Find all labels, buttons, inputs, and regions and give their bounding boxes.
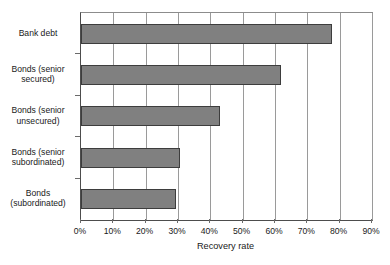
bar [81, 106, 220, 126]
category-label: Bonds (senior unsecured) [0, 105, 76, 126]
category-label: Bank debt [0, 28, 76, 38]
bar [81, 148, 180, 168]
x-axis-tick [274, 219, 275, 223]
y-axis-tick [75, 95, 80, 96]
y-axis-tick [75, 178, 80, 179]
x-axis-tick [242, 219, 243, 223]
x-axis-tick [339, 219, 340, 223]
category-label: Bonds (senior subordinated) [0, 147, 76, 168]
bar-row [81, 179, 372, 220]
bar-row [81, 13, 372, 54]
x-axis-tick [209, 219, 210, 223]
y-axis-tick [75, 53, 80, 54]
recovery-rate-bar-chart: Bank debtBonds (senior secured)Bonds (se… [0, 0, 390, 265]
category-label: Bonds (subordinated) [0, 188, 76, 209]
x-axis-title: Recovery rate [80, 241, 371, 252]
bar [81, 189, 176, 209]
bar-row [81, 54, 372, 95]
category-axis-labels: Bank debtBonds (senior secured)Bonds (se… [0, 12, 76, 219]
x-axis-tick [177, 219, 178, 223]
gridline-vertical [372, 13, 373, 220]
category-label: Bonds (senior secured) [0, 64, 76, 85]
x-axis-tick [80, 219, 81, 223]
bar-row [81, 96, 372, 137]
bar [81, 65, 281, 85]
x-axis-tick [112, 219, 113, 223]
bar [81, 24, 332, 44]
x-axis-tick-label: 90% [351, 226, 390, 236]
x-axis-tick [145, 219, 146, 223]
bar-row [81, 137, 372, 178]
y-axis-tick [75, 136, 80, 137]
x-axis-tick [371, 219, 372, 223]
plot-area [80, 12, 373, 221]
x-axis-tick [306, 219, 307, 223]
